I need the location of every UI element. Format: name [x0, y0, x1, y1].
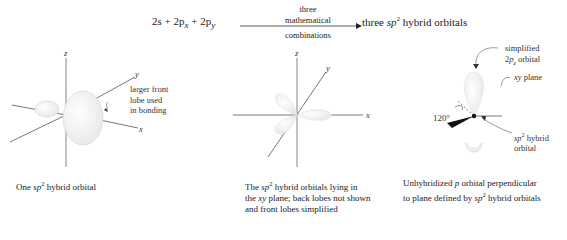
- large-front-lobe: [63, 91, 103, 145]
- axis-label-y: y: [135, 69, 139, 80]
- x-axis: [100, 120, 138, 128]
- axis-label-z: z: [295, 48, 298, 59]
- caption-panel2: The sp2 hybrid orbitals lying in the xy …: [245, 178, 370, 215]
- panel2-three-hybrids: [233, 58, 363, 167]
- axis-label-z: z: [64, 48, 67, 59]
- lower-p-lobe: [466, 143, 482, 152]
- caption-panel3: Unhybridized p orbital perpendicular to …: [403, 178, 541, 204]
- panel3-unhybridized-p: [447, 48, 512, 152]
- upper-p-lobe: [464, 72, 483, 117]
- central-atom: [472, 114, 476, 118]
- larger-lobe-annotation: larger front lobe used in bonding: [130, 84, 168, 116]
- axis-label-x: x: [139, 124, 143, 135]
- reaction-arrow: [240, 23, 362, 29]
- simplified-2pz-label: simplified 2pz orbital: [505, 43, 540, 68]
- caption-panel1: One sp2 hybrid orbital: [16, 178, 96, 193]
- xy-plane-label: xy plane: [514, 72, 542, 83]
- sp2-hybrid-orbital-label: sp2 hybrid orbital: [514, 130, 549, 154]
- axis-label-y: y: [326, 63, 330, 74]
- panel1-single-hybrid: [10, 58, 138, 167]
- angle-label: 120°: [433, 113, 450, 124]
- small-back-lobe: [35, 101, 59, 117]
- axis-label-x: x: [366, 110, 370, 121]
- wedge-bond: [447, 116, 474, 128]
